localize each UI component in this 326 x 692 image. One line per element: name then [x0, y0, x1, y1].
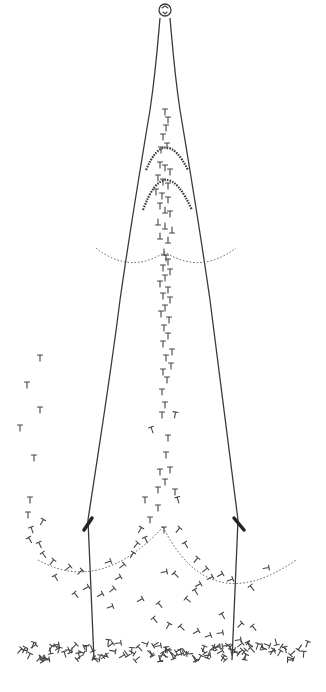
t-particle-icon [236, 641, 244, 649]
t-particle-icon [162, 325, 167, 331]
t-particle-icon [235, 637, 242, 643]
t-particle-icon [159, 311, 164, 317]
t-particle-icon [115, 640, 122, 646]
t-particle-icon [165, 377, 170, 383]
t-particle-icon [172, 412, 178, 419]
t-particle-icon [52, 574, 59, 582]
t-particle-icon [132, 541, 140, 549]
t-particle-icon [163, 275, 168, 281]
t-particle-icon [72, 591, 80, 599]
t-particle-icon [160, 193, 165, 199]
t-particle-icon [164, 125, 169, 131]
t-particle-icon [192, 628, 200, 635]
t-particle-icon [169, 363, 174, 369]
t-particle-icon [161, 341, 166, 347]
t-particle-icon [263, 641, 270, 648]
t-particle-icon [187, 651, 193, 656]
t-particle-icon [304, 641, 311, 648]
t-particle-icon [250, 624, 258, 632]
t-particle-icon [184, 596, 192, 604]
t-particle-icon [163, 305, 168, 311]
knob [159, 4, 171, 16]
t-particle-icon [156, 175, 161, 181]
t-particle-icon [141, 640, 148, 647]
t-particle-icon [48, 558, 56, 566]
t-particle-icon [174, 526, 182, 534]
t-particle-icon [161, 265, 166, 271]
t-particle-icon [296, 643, 304, 651]
t-particle-icon [248, 584, 256, 592]
t-particle-icon [289, 649, 297, 657]
t-particle-icon [167, 317, 172, 323]
t-particle-icon [166, 237, 171, 243]
t-particle-icon [163, 479, 168, 485]
t-particle-icon [217, 630, 224, 636]
t-particle-icon [128, 551, 135, 559]
dotted-arc [38, 527, 163, 572]
t-particle-icon [133, 655, 141, 663]
t-particle-icon [254, 643, 261, 650]
t-particle-icon [226, 577, 233, 584]
dotted-arcs [38, 248, 296, 584]
t-particle-icon [194, 581, 202, 588]
t-particle-icon [163, 402, 168, 408]
t-particle-icon [148, 517, 153, 523]
t-particle-icon [26, 512, 31, 518]
t-particle-icon [118, 653, 126, 660]
t-particle-icon [161, 569, 168, 575]
t-particle-icon [158, 162, 163, 168]
t-particle-icon [216, 571, 224, 578]
t-particle-icon [158, 281, 163, 287]
t-particle-icon [201, 566, 209, 574]
t-particle-icon [166, 117, 171, 123]
t-particle-icon [136, 645, 144, 653]
t-particle-icon [164, 452, 169, 458]
t-particle-icon [18, 425, 23, 431]
t-particle-icon [156, 505, 161, 511]
t-particle-icon [166, 287, 171, 293]
t-particle-icon [38, 518, 45, 526]
t-particle-icon [158, 233, 163, 239]
t-particle-icon [96, 591, 104, 598]
t-particle-icon [142, 536, 149, 544]
t-particle-icon [168, 269, 173, 275]
t-particle-icon [82, 584, 90, 591]
t-particle-icon [32, 455, 37, 461]
t-particle-icon [29, 526, 36, 533]
t-particle-icon [161, 652, 169, 659]
t-particle-icon [166, 333, 171, 339]
clip-icon [234, 518, 244, 530]
t-particle-icon [163, 223, 168, 229]
t-particle-icon [273, 638, 279, 645]
t-particle-icon [160, 412, 165, 418]
funnel-diagram [0, 0, 326, 692]
t-particle-icon [28, 497, 33, 503]
t-particle-icon [156, 219, 161, 225]
t-particle-icon [104, 559, 111, 566]
t-particle-icon [114, 574, 122, 581]
t-particle-icon [162, 527, 167, 533]
t-particle-icon [25, 382, 30, 388]
t-particle-icon [160, 389, 165, 395]
t-particle-icon [263, 565, 270, 571]
knob-detail [162, 6, 168, 14]
t-particle-icon [168, 467, 173, 473]
t-particle-icon [38, 407, 43, 413]
t-particle-icon [136, 596, 144, 603]
t-particle-icon [236, 621, 244, 629]
t-particle-icon [170, 227, 175, 233]
t-particle-icon [143, 497, 148, 503]
t-particle-icon [109, 648, 116, 654]
t-particle-icon [149, 426, 156, 433]
t-particle-icon [172, 571, 180, 579]
t-particles [18, 109, 270, 656]
t-particle-icon [173, 489, 178, 495]
t-particle-icon [158, 203, 163, 209]
t-particle-icon [36, 541, 43, 549]
t-particle-icon [163, 165, 168, 171]
outer-right-edge [170, 18, 238, 520]
t-particle-icon [192, 556, 200, 564]
t-particle-icon [164, 622, 171, 630]
t-particle-icon [156, 601, 164, 609]
t-particle-icon [38, 355, 43, 361]
